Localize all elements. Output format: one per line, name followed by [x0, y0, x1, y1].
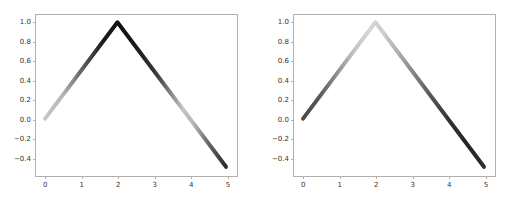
y-tick-label: 0.8 [264, 38, 289, 45]
data-line [45, 22, 226, 167]
y-tick-label: 1.0 [264, 19, 289, 26]
y-tick-label: −0.2 [264, 136, 289, 143]
x-tick-mark [155, 176, 156, 179]
y-tick-label: −0.2 [6, 136, 31, 143]
y-tick-mark [33, 120, 36, 121]
y-tick-label: −0.4 [6, 155, 31, 162]
x-tick-mark [303, 176, 304, 179]
y-tick-mark [291, 159, 294, 160]
data-line [303, 22, 484, 167]
y-tick-mark [291, 120, 294, 121]
x-tick-mark [191, 176, 192, 179]
y-tick-mark [291, 42, 294, 43]
y-tick-mark [33, 100, 36, 101]
y-tick-mark [291, 81, 294, 82]
y-tick-label: 0.6 [264, 58, 289, 65]
y-tick-mark [291, 100, 294, 101]
x-tick-mark [340, 176, 341, 179]
y-tick-label: 1.0 [6, 19, 31, 26]
y-tick-label: 0.2 [6, 97, 31, 104]
x-tick-label: 1 [337, 182, 341, 189]
x-tick-label: 3 [411, 182, 415, 189]
y-tick-mark [33, 22, 36, 23]
axes-panel-left [35, 14, 238, 177]
y-tick-mark [33, 42, 36, 43]
x-tick-label: 2 [374, 182, 378, 189]
y-tick-mark [291, 139, 294, 140]
line-plot-left [36, 15, 237, 176]
line-plot-right [294, 15, 495, 176]
x-tick-mark [45, 176, 46, 179]
x-tick-label: 0 [43, 182, 47, 189]
x-tick-mark [118, 176, 119, 179]
y-tick-label: 0.2 [264, 97, 289, 104]
y-tick-label: 0.6 [6, 58, 31, 65]
y-tick-mark [291, 22, 294, 23]
y-tick-mark [33, 61, 36, 62]
x-tick-label: 1 [79, 182, 83, 189]
x-tick-mark [413, 176, 414, 179]
x-tick-mark [82, 176, 83, 179]
y-tick-mark [33, 159, 36, 160]
x-tick-label: 0 [301, 182, 305, 189]
y-tick-label: −0.4 [264, 155, 289, 162]
x-tick-label: 5 [226, 182, 230, 189]
y-tick-label: 0.8 [6, 38, 31, 45]
x-tick-mark [376, 176, 377, 179]
x-tick-label: 4 [447, 182, 451, 189]
y-tick-label: 0.4 [264, 77, 289, 84]
figure-canvas: 1.00.80.60.40.20.0−0.2−0.40123451.00.80.… [0, 0, 516, 203]
x-tick-label: 5 [484, 182, 488, 189]
x-tick-label: 2 [116, 182, 120, 189]
axes-panel-right [293, 14, 496, 177]
y-tick-mark [291, 61, 294, 62]
y-tick-label: 0.0 [6, 116, 31, 123]
y-tick-mark [33, 139, 36, 140]
x-tick-mark [449, 176, 450, 179]
y-tick-label: 0.0 [264, 116, 289, 123]
x-tick-mark [486, 176, 487, 179]
y-tick-label: 0.4 [6, 77, 31, 84]
x-tick-label: 3 [153, 182, 157, 189]
x-tick-mark [228, 176, 229, 179]
y-tick-mark [33, 81, 36, 82]
x-tick-label: 4 [189, 182, 193, 189]
